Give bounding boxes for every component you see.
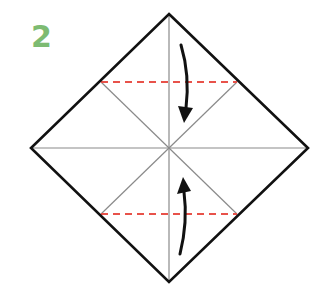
fold-down-arrow-icon: [178, 45, 193, 123]
crease-lines: [31, 14, 308, 282]
fold-up-arrow-icon: [177, 177, 191, 254]
origami-diagram: [0, 0, 327, 288]
